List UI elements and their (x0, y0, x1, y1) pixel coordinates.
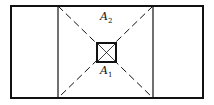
label-a2: A2 (99, 10, 112, 25)
diagram-canvas: A2 A1 (0, 0, 214, 105)
label-a1: A1 (99, 64, 112, 79)
